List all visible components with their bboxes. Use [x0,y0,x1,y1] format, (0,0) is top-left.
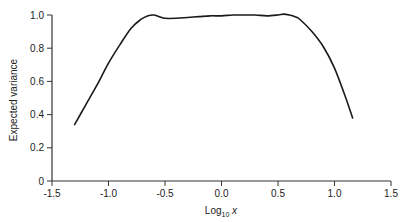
x-axis-title-subscript: 10 [222,211,230,218]
x-tick-label: 1.5 [384,188,398,199]
y-tick-label: 1.0 [30,10,44,21]
x-axis: -1.5-1.0-0.50.00.51.01.5 [43,181,398,199]
x-axis-title-main: Log [205,205,222,216]
y-tick-label: 0.4 [30,109,44,120]
line-chart: 00.20.40.60.81.0 -1.5-1.0-0.50.00.51.01.… [0,0,416,222]
y-axis: 00.20.40.60.81.0 [30,10,52,187]
y-tick-label: 0 [38,176,44,187]
x-axis-title: Log10 x [205,205,238,218]
x-tick-label: -1.5 [43,188,61,199]
x-tick-label: -0.5 [156,188,174,199]
x-tick-label: 0.5 [271,188,285,199]
series-layer [75,14,353,124]
x-axis-title-tail: x [229,205,238,216]
y-tick-label: 0.8 [30,43,44,54]
series-line [75,14,353,124]
x-tick-label: -1.0 [100,188,118,199]
y-tick-label: 0.2 [30,142,44,153]
x-tick-label: 0.0 [215,188,229,199]
y-tick-label: 0.6 [30,76,44,87]
y-axis-title: Expected variance [8,58,19,141]
x-tick-label: 1.0 [328,188,342,199]
